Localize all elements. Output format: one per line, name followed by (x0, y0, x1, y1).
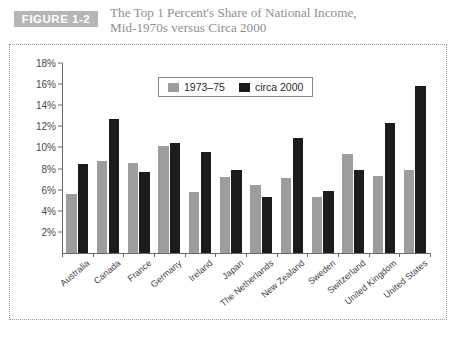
figure-title-line-2: Mid-1970s versus Circa 2000 (110, 21, 450, 36)
bar-group (338, 63, 369, 253)
chart-panel: 2%4%6%8%10%12%14%16%18% AustraliaCanadaF… (9, 44, 447, 320)
legend-item-circa-2000: circa 2000 (239, 81, 303, 93)
bar (323, 191, 334, 253)
page-title: The Top 1 Percent's Share of National In… (110, 6, 450, 35)
bar (78, 164, 89, 253)
x-axis-tick-mark (338, 253, 339, 257)
bar (373, 176, 384, 253)
x-axis-tick-mark (154, 253, 155, 257)
bar (158, 146, 169, 253)
bar (66, 194, 77, 253)
bar (293, 138, 304, 253)
bar-group (369, 63, 400, 253)
x-axis-label: Japan (220, 258, 245, 281)
figure-header: FIGURE 1-2 The Top 1 Percent's Share of … (0, 0, 456, 40)
bar-group (62, 63, 93, 253)
bar (385, 123, 396, 253)
legend-label-circa-2000: circa 2000 (255, 81, 303, 93)
bar (231, 170, 242, 253)
legend-item-1973-75: 1973–75 (168, 81, 225, 93)
x-axis-tick-mark (123, 253, 124, 257)
x-axis-label: Germany (149, 258, 184, 289)
bar (281, 178, 292, 253)
bar (128, 163, 139, 253)
x-axis-tick-mark (215, 253, 216, 257)
figure-number-badge: FIGURE 1-2 (14, 11, 98, 27)
bar (342, 154, 353, 253)
x-axis-tick-mark (185, 253, 186, 257)
bar-group (123, 63, 154, 253)
x-axis-tick-mark (93, 253, 94, 257)
plot-wrapper: 2%4%6%8%10%12%14%16%18% AustraliaCanadaF… (10, 45, 448, 321)
x-axis-label: Ireland (187, 258, 215, 283)
x-axis-tick-mark (62, 253, 63, 257)
bar (201, 152, 212, 253)
bar (312, 197, 323, 253)
bar (262, 197, 273, 253)
bar (415, 86, 426, 253)
bar-group (399, 63, 430, 253)
source-note (12, 331, 442, 340)
bar (250, 185, 261, 253)
bar-group (93, 63, 124, 253)
x-axis-label: Australia (59, 258, 92, 288)
bar (97, 161, 108, 253)
bar (220, 177, 231, 253)
figure-title-line-1: The Top 1 Percent's Share of National In… (110, 6, 450, 21)
x-axis-label: The Netherlands (218, 258, 275, 308)
x-axis-tick-mark (246, 253, 247, 257)
bar (139, 172, 150, 253)
bar (404, 170, 415, 253)
x-axis-label: Canada (92, 258, 123, 286)
x-axis-tick-mark (307, 253, 308, 257)
bar (354, 170, 365, 253)
x-axis-tick-mark (399, 253, 400, 257)
x-axis-tick-mark (369, 253, 370, 257)
chart-legend: 1973–75 circa 2000 (158, 77, 313, 97)
bar (109, 119, 120, 253)
x-axis-tick-mark (277, 253, 278, 257)
legend-label-1973-75: 1973–75 (184, 81, 225, 93)
legend-swatch-icon-1973-75 (168, 83, 179, 92)
x-axis-tick-mark (430, 253, 431, 257)
legend-swatch-icon-circa-2000 (239, 83, 250, 92)
bar (170, 143, 181, 253)
bar (189, 192, 200, 253)
